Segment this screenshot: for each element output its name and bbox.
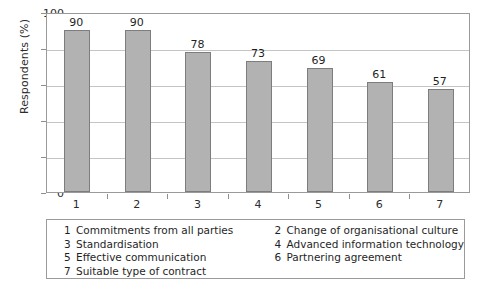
legend-entry: 2Change of organisational culture — [275, 224, 465, 238]
legend-box: 1Commitments from all parties3Standardis… — [46, 219, 465, 279]
x-tick-mark — [349, 194, 350, 199]
legend-entry-number: 2 — [275, 224, 287, 238]
bar-value-label: 69 — [299, 54, 339, 67]
legend-entry-label: Commitments from all parties — [76, 224, 233, 238]
bar-value-label: 57 — [420, 75, 460, 88]
bar-chart-figure: Respondents (%) 020406080100 90907873696… — [0, 0, 493, 294]
legend-entry: 1Commitments from all parties — [64, 224, 256, 238]
plot-area — [46, 13, 470, 193]
x-tick-label: 3 — [177, 198, 217, 211]
bar — [185, 52, 211, 192]
legend-entry: 3Standardisation — [64, 238, 256, 252]
legend-entry-label: Advanced information technology — [287, 238, 464, 252]
x-tick-label: 1 — [56, 198, 96, 211]
legend-columns: 1Commitments from all parties3Standardis… — [47, 220, 464, 278]
x-tick-label: 6 — [359, 198, 399, 211]
x-tick-label: 4 — [238, 198, 278, 211]
legend-column-left: 1Commitments from all parties3Standardis… — [47, 224, 256, 278]
legend-entry-number: 6 — [275, 251, 287, 265]
legend-entry-label: Effective communication — [76, 251, 206, 265]
legend-entry-label: Standardisation — [76, 238, 159, 252]
bar-value-label: 73 — [238, 47, 278, 60]
legend-entry-label: Change of organisational culture — [287, 224, 459, 238]
legend-entry-label: Suitable type of contract — [76, 265, 206, 279]
legend-entry: 4Advanced information technology — [275, 238, 465, 252]
legend-entry-number: 4 — [275, 238, 287, 252]
bar — [64, 30, 90, 192]
legend-entry-number: 7 — [64, 265, 76, 279]
bar — [307, 68, 333, 192]
bar-value-label: 78 — [177, 38, 217, 51]
bar-value-label: 90 — [117, 16, 157, 29]
legend-entry-number: 1 — [64, 224, 76, 238]
legend-entry: 7Suitable type of contract — [64, 265, 256, 279]
x-tick-mark — [107, 194, 108, 199]
x-tick-label: 7 — [420, 198, 460, 211]
bar — [125, 30, 151, 192]
x-tick-mark — [228, 194, 229, 199]
bar — [367, 82, 393, 192]
legend-entry: 5Effective communication — [64, 251, 256, 265]
legend-entry-label: Partnering agreement — [287, 251, 402, 265]
bar-value-label: 90 — [56, 16, 96, 29]
x-tick-label: 2 — [117, 198, 157, 211]
y-tick-mark — [41, 193, 46, 194]
legend-entry-number: 5 — [64, 251, 76, 265]
legend-entry-number: 3 — [64, 238, 76, 252]
legend-column-right: 2Change of organisational culture4Advanc… — [256, 224, 465, 278]
bar — [246, 61, 272, 192]
x-tick-label: 5 — [299, 198, 339, 211]
x-tick-mark — [409, 194, 410, 199]
x-tick-mark — [288, 194, 289, 199]
legend-entry: 6Partnering agreement — [275, 251, 465, 265]
bar-value-label: 61 — [359, 68, 399, 81]
x-tick-mark — [167, 194, 168, 199]
bar — [428, 89, 454, 192]
